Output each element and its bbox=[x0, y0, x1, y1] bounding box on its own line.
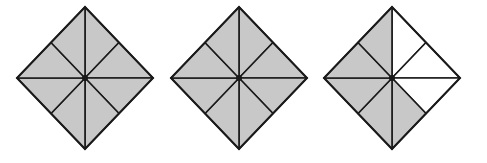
center-dot bbox=[236, 75, 242, 81]
center-dot bbox=[82, 75, 88, 81]
diamond-3 bbox=[324, 7, 460, 149]
diamond-1 bbox=[17, 7, 153, 149]
fraction-diagram bbox=[0, 0, 487, 163]
center-dot bbox=[389, 75, 395, 81]
diamond-2 bbox=[171, 7, 307, 149]
diagram-canvas bbox=[0, 0, 487, 163]
